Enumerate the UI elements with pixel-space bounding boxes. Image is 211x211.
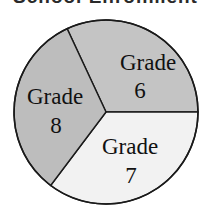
svg-text:Grade: Grade [102,134,158,159]
svg-text:8: 8 [50,113,62,138]
svg-text:Grade: Grade [120,50,176,75]
pie-chart: Grade 6 Grade 7 Grade 8 [0,0,211,211]
svg-text:Grade: Grade [27,84,83,109]
svg-text:6: 6 [134,78,146,103]
svg-text:7: 7 [125,163,137,188]
